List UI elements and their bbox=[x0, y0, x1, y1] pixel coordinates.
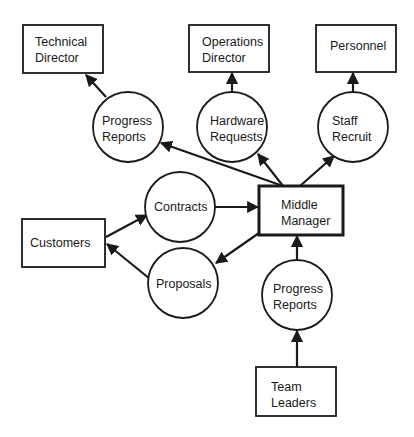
entity-technical-director bbox=[23, 25, 103, 73]
flow-progress-reports-to-technical-director bbox=[86, 75, 106, 97]
label-personnel: Personnel bbox=[330, 39, 386, 53]
label-proposals: Proposals bbox=[156, 277, 212, 291]
flow-customers-to-contracts bbox=[106, 215, 147, 237]
flow-proposals-to-customers bbox=[107, 244, 150, 279]
data-flow-diagram: Technical Director Operations Director P… bbox=[0, 0, 414, 437]
flow-middle-manager-to-staff-recruit bbox=[300, 156, 334, 186]
flow-middle-manager-to-proposals bbox=[216, 233, 259, 263]
label-customers: Customers bbox=[30, 236, 90, 250]
label-contracts: Contracts bbox=[154, 200, 208, 214]
